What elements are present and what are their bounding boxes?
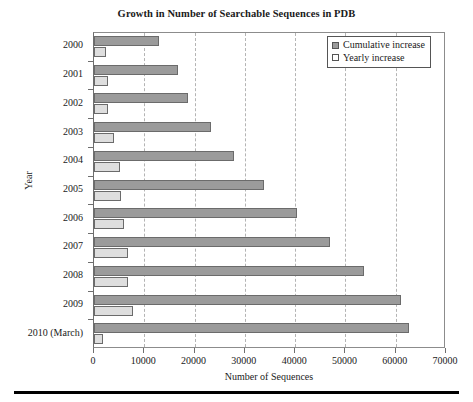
- y-tick-label: 2006: [0, 212, 88, 223]
- legend-label-cumulative: Cumulative increase: [343, 39, 425, 52]
- bar-row: [94, 321, 446, 350]
- y-tick-mark: [88, 118, 93, 119]
- bar-cumulative: [94, 93, 188, 103]
- y-tick-label: 2009: [0, 298, 88, 309]
- bar-row: [94, 235, 446, 264]
- y-tick-mark: [88, 319, 93, 320]
- y-tick-mark: [88, 61, 93, 62]
- x-axis-label: Number of Sequences: [93, 371, 445, 382]
- bar-cumulative: [94, 295, 401, 305]
- chart-legend: Cumulative increase Yearly increase: [327, 36, 431, 68]
- x-tick-mark: [445, 348, 446, 353]
- bar-yearly: [94, 104, 108, 114]
- x-tick-mark: [294, 348, 295, 353]
- bar-cumulative: [94, 151, 234, 161]
- bar-cumulative: [94, 65, 178, 75]
- x-tick-mark: [194, 348, 195, 353]
- bar-row: [94, 293, 446, 322]
- y-tick-mark: [88, 233, 93, 234]
- legend-item-cumulative: Cumulative increase: [332, 39, 425, 52]
- plot-area: [93, 32, 445, 348]
- chart-title: Growth in Number of Searchable Sequences…: [0, 8, 473, 19]
- y-tick-label: 2003: [0, 126, 88, 137]
- bar-row: [94, 149, 446, 178]
- y-tick-label: 2007: [0, 240, 88, 251]
- x-tick-mark: [344, 348, 345, 353]
- bar-cumulative: [94, 180, 264, 190]
- bar-cumulative: [94, 266, 364, 276]
- y-tick-mark: [88, 291, 93, 292]
- x-tick-mark: [244, 348, 245, 353]
- y-tick-mark: [88, 176, 93, 177]
- x-tick-mark: [395, 348, 396, 353]
- bar-cumulative: [94, 208, 297, 218]
- y-tick-mark: [88, 262, 93, 263]
- x-tick-mark: [143, 348, 144, 353]
- bar-yearly: [94, 306, 133, 316]
- footer-rule: [14, 391, 459, 394]
- y-tick-label: 2008: [0, 269, 88, 280]
- legend-swatch-yearly: [332, 54, 339, 61]
- y-tick-label: 2001: [0, 68, 88, 79]
- y-tick-mark: [88, 89, 93, 90]
- legend-swatch-cumulative: [332, 42, 339, 49]
- bar-cumulative: [94, 36, 159, 46]
- bar-yearly: [94, 162, 120, 172]
- bar-cumulative: [94, 122, 211, 132]
- y-tick-label: 2010 (March): [0, 327, 88, 338]
- bar-yearly: [94, 334, 103, 344]
- bar-row: [94, 264, 446, 293]
- x-tick-label: 70000: [415, 355, 473, 366]
- y-tick-mark: [88, 204, 93, 205]
- bar-row: [94, 120, 446, 149]
- legend-label-yearly: Yearly increase: [343, 52, 404, 65]
- bar-yearly: [94, 248, 128, 258]
- bar-yearly: [94, 47, 106, 57]
- bar-yearly: [94, 219, 124, 229]
- y-tick-label: 2005: [0, 183, 88, 194]
- bar-row: [94, 206, 446, 235]
- bar-yearly: [94, 133, 114, 143]
- bar-row: [94, 91, 446, 120]
- y-tick-label: 2004: [0, 154, 88, 165]
- legend-item-yearly: Yearly increase: [332, 52, 425, 65]
- x-tick-mark: [93, 348, 94, 353]
- y-tick-label: 2000: [0, 39, 88, 50]
- y-tick-mark: [88, 147, 93, 148]
- bar-cumulative: [94, 323, 409, 333]
- bar-yearly: [94, 191, 121, 201]
- bar-cumulative: [94, 237, 330, 247]
- y-tick-label: 2002: [0, 97, 88, 108]
- bar-yearly: [94, 277, 128, 287]
- bar-yearly: [94, 76, 108, 86]
- bar-row: [94, 178, 446, 207]
